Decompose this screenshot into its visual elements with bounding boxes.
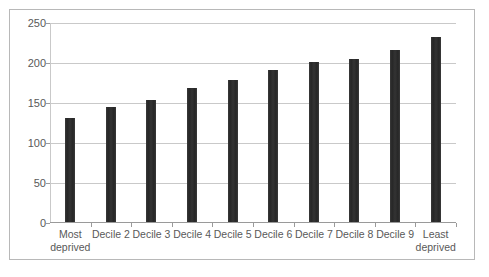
y-tick-label: 200 [28, 57, 46, 69]
x-tick-mark [456, 223, 457, 227]
x-tick-mark [375, 223, 376, 227]
bar[interactable] [228, 80, 238, 223]
bar-slot [91, 23, 132, 223]
x-axis-line [50, 222, 456, 223]
y-tick-label: 250 [28, 17, 46, 29]
y-axis-tick-labels: 050100150200250 [10, 23, 46, 223]
x-tick-mark [131, 223, 132, 227]
x-axis-tick-labels: Most deprivedDecile 2Decile 3Decile 4Dec… [50, 228, 456, 262]
x-tick-label: Least deprived [415, 228, 456, 254]
bar[interactable] [65, 118, 75, 223]
bar[interactable] [309, 62, 319, 223]
x-tick-label: Decile 9 [375, 228, 416, 241]
plot-area [50, 23, 456, 223]
x-tick-label: Decile 4 [172, 228, 213, 241]
x-tick-label: Decile 8 [334, 228, 375, 241]
x-tick-label: Decile 2 [91, 228, 132, 241]
x-tick-label: Decile 5 [212, 228, 253, 241]
bar-slot [172, 23, 213, 223]
x-tick-mark [294, 223, 295, 227]
bar-slot [50, 23, 91, 223]
bar[interactable] [349, 59, 359, 223]
x-tick-mark [172, 223, 173, 227]
x-tick-mark [334, 223, 335, 227]
bar[interactable] [146, 100, 156, 223]
x-tick-label: Decile 3 [131, 228, 172, 241]
bar-series [50, 23, 456, 223]
y-tick-mark [46, 223, 50, 224]
x-tick-mark [212, 223, 213, 227]
bar-slot [375, 23, 416, 223]
bar-slot [131, 23, 172, 223]
x-tick-mark [253, 223, 254, 227]
x-tick-label: Decile 6 [253, 228, 294, 241]
bar[interactable] [187, 88, 197, 223]
chart-frame: 050100150200250 Most deprivedDecile 2Dec… [9, 9, 475, 260]
x-tick-label: Decile 7 [294, 228, 335, 241]
bar-slot [294, 23, 335, 223]
y-tick-label: 150 [28, 97, 46, 109]
x-tick-mark [91, 223, 92, 227]
y-tick-label: 50 [34, 177, 46, 189]
y-tick-label: 100 [28, 137, 46, 149]
bar[interactable] [390, 50, 400, 223]
bar[interactable] [431, 37, 441, 223]
bar-slot [253, 23, 294, 223]
bar-slot [212, 23, 253, 223]
bar-slot [334, 23, 375, 223]
bar-slot [415, 23, 456, 223]
bar[interactable] [268, 70, 278, 223]
x-tick-label: Most deprived [50, 228, 91, 254]
bar[interactable] [106, 107, 116, 223]
x-tick-mark [415, 223, 416, 227]
